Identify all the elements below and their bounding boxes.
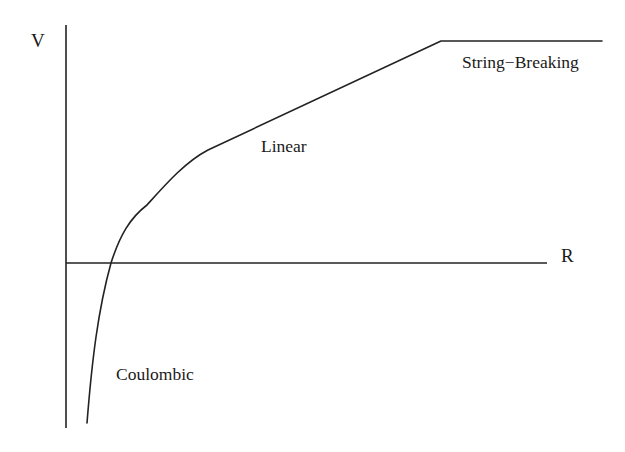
r-axis-label: R — [561, 245, 574, 266]
v-axis-label: V — [31, 30, 45, 51]
string-breaking-label: String−Breaking — [462, 52, 579, 72]
coulombic-label: Coulombic — [116, 364, 194, 384]
linear-label: Linear — [261, 136, 307, 156]
potential-diagram: V R Coulombic Linear String−Breaking — [0, 0, 625, 452]
